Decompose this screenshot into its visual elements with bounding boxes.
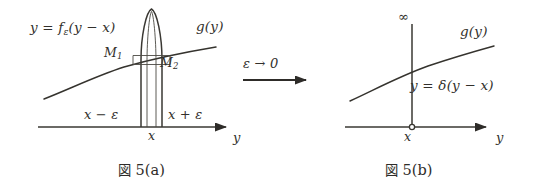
label-m1: M1 [104, 47, 122, 61]
peak-inner-left-line [147, 12, 152, 128]
label-epsilon-to-zero: ε → 0 [243, 57, 278, 70]
caption-fig-5b: 図 5(b) [385, 163, 432, 178]
peak-inner-right-line [152, 12, 157, 128]
label-infinity: ∞ [398, 10, 409, 23]
label-x-minus-epsilon: x − ε [84, 108, 118, 121]
label-x-tick-b: x [404, 131, 411, 144]
label-axis-y-a: y [233, 131, 241, 144]
caption-fig-5a: 図 5(a) [118, 163, 165, 178]
label-x-tick-a: x [148, 130, 155, 143]
label-delta-function: y = δ(y − x) [410, 79, 494, 93]
curve-g-of-y-a [44, 47, 216, 99]
label-f-eps-function: y = fε(y − x) [30, 21, 116, 36]
label-x-plus-epsilon: x + ε [168, 108, 202, 121]
label-g-of-y-b: g(y) [460, 25, 488, 39]
label-axis-y-b: y [496, 131, 504, 144]
figure-container: y = fε(y − x) g(y) M1 M2 x − ε x + ε x y… [0, 0, 539, 195]
curve-f-eps-peak [141, 9, 162, 127]
label-m2: M2 [160, 57, 178, 71]
label-g-of-y-a: g(y) [196, 20, 224, 34]
